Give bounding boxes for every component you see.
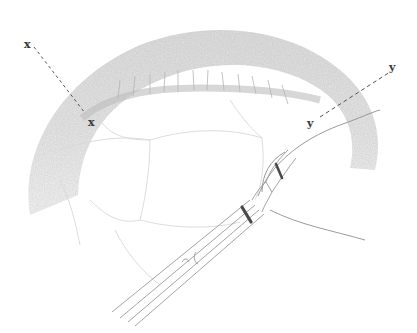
anatomical-sketch: x x y y xyxy=(0,0,417,333)
label-x-end: x xyxy=(88,116,95,129)
wall-arch xyxy=(28,30,378,215)
label-y-start: y xyxy=(306,117,314,130)
label-x-start: x xyxy=(24,38,31,51)
illustration-canvas: x x y y xyxy=(0,0,417,333)
label-y-end: y xyxy=(388,61,396,74)
catheter xyxy=(112,150,296,326)
